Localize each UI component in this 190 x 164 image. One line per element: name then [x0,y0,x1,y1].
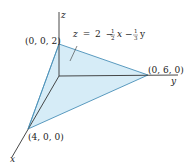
plane-equation: z = 2 − 1 2 x− 1 3 y [72,28,146,41]
svg-text:2: 2 [111,35,115,41]
plane-triangle [28,44,148,129]
vertex-label-y-intercept: (0, 6, 0) [148,65,184,75]
svg-text:z = 2 −: z = 2 − [72,29,113,39]
vertex-label-z-intercept: (0, 0, 2) [25,36,61,46]
plane-diagram: z y x (0, 0, 2) (0, 6, 0) (4, 0, 0) z = … [0,0,190,164]
vertex-label-x-intercept: (4, 0, 0) [28,132,64,142]
svg-text:x−: x− [117,29,133,39]
z-axis-label: z [60,10,66,20]
svg-text:1: 1 [134,28,138,34]
svg-text:y: y [139,29,146,39]
y-axis-label: y [170,76,177,86]
svg-text:3: 3 [134,35,138,41]
x-axis-label: x [10,154,15,164]
svg-text:1: 1 [111,28,115,34]
